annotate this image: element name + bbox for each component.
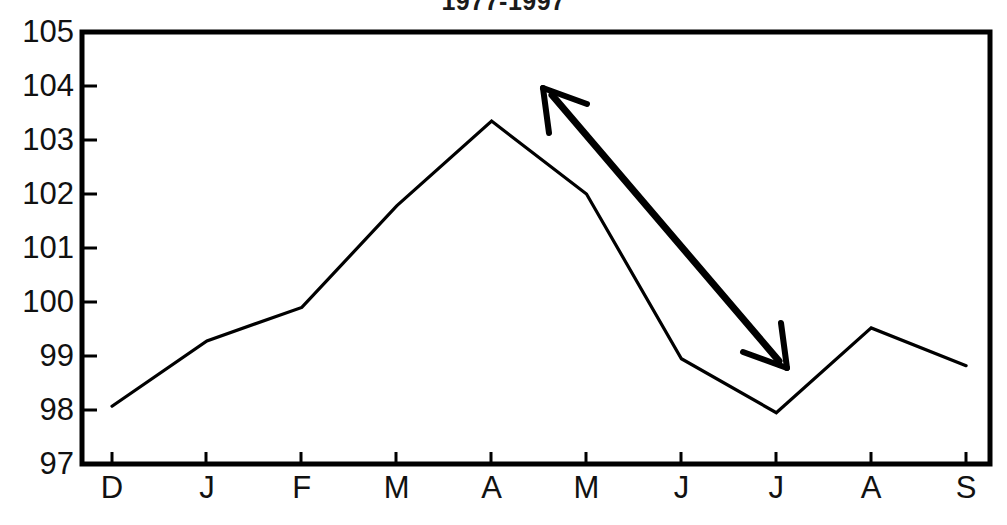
x-axis-tick-label: J (187, 472, 227, 503)
x-axis-labels: DJFMAMJJAS (0, 0, 1007, 525)
x-axis-tick-label: J (756, 472, 796, 503)
x-axis-tick-label: D (92, 472, 132, 503)
x-axis-tick-label: S (946, 472, 986, 503)
x-axis-tick-label: A (472, 472, 512, 503)
x-axis-tick-label: F (282, 472, 322, 503)
x-axis-tick-label: M (567, 472, 607, 503)
x-axis-tick-label: M (377, 472, 417, 503)
x-axis-tick-label: J (661, 472, 701, 503)
x-axis-tick-label: A (851, 472, 891, 503)
chart-screenshot: 1977-1997 (0, 0, 1007, 525)
